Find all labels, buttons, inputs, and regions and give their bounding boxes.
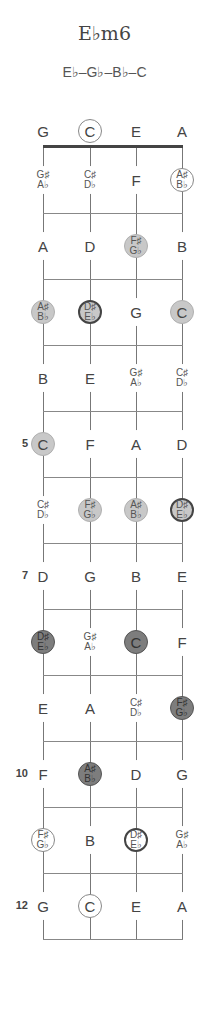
- note-name: B: [85, 833, 95, 848]
- fret-number: 10: [12, 767, 28, 779]
- note-marker-fret9-A: F♯G♭: [170, 696, 194, 720]
- note-marker-fret8-G: D♯E♭: [31, 630, 55, 654]
- fret-line: [43, 411, 183, 412]
- note-name: G: [37, 124, 49, 139]
- fret-line: [43, 873, 183, 874]
- note-marker-fret6-E: A♯B♭: [124, 498, 148, 522]
- note-marker-fret6-A: D♯E♭: [170, 498, 194, 522]
- note-flat-name: E♭: [84, 312, 96, 322]
- note-name: G: [37, 899, 49, 914]
- note-flat-name: G♭: [84, 510, 97, 520]
- note-label-fret12-G: G: [29, 892, 57, 920]
- fret-line: [43, 939, 183, 940]
- note-label-fret4-G: B: [29, 364, 57, 392]
- note-flat-name: B♭: [176, 180, 188, 190]
- note-label-fret4-C: E: [76, 364, 104, 392]
- note-marker-fret10-C: A♯B♭: [78, 762, 102, 786]
- note-marker-fret12-C: C: [78, 894, 102, 918]
- fret-line: [43, 345, 183, 346]
- note-label-fret4-A: C♯D♭: [168, 364, 196, 392]
- note-flat-name: A♭: [37, 180, 49, 190]
- note-flat-name: E♭: [37, 642, 49, 652]
- note-marker-fret5-G: C: [31, 432, 55, 456]
- note-flat-name: D♭: [37, 510, 49, 520]
- fret-line: [43, 609, 183, 610]
- note-flat-name: A♭: [176, 840, 188, 850]
- note-label-fret12-A: A: [168, 892, 196, 920]
- note-label-fret7-G: D: [29, 562, 57, 590]
- note-label-fret2-A: B: [168, 232, 196, 260]
- note-name: F: [131, 173, 140, 188]
- note-name: A: [177, 124, 187, 139]
- note-label-fret5-E: A: [122, 430, 150, 458]
- note-name: C: [131, 635, 142, 650]
- nut: [43, 145, 183, 148]
- note-label-fret7-A: E: [168, 562, 196, 590]
- note-label-fret10-A: G: [168, 760, 196, 788]
- note-name: E: [131, 124, 141, 139]
- fret-line: [43, 675, 183, 676]
- note-marker-fret8-E: C: [124, 630, 148, 654]
- note-name: C: [38, 437, 49, 452]
- note-name: G: [84, 569, 96, 584]
- note-label-fret0-A: A: [168, 117, 196, 145]
- note-label-fret5-A: D: [168, 430, 196, 458]
- note-marker-fret1-A: A♯B♭: [170, 168, 194, 192]
- note-name: F: [38, 767, 47, 782]
- note-name: C: [85, 124, 96, 139]
- note-flat-name: G♭: [176, 708, 189, 718]
- note-name: B: [38, 371, 48, 386]
- note-label-fret11-A: G♯A♭: [168, 826, 196, 854]
- note-marker-fret2-E: F♯G♭: [124, 234, 148, 258]
- note-label-fret1-G: G♯A♭: [29, 166, 57, 194]
- note-name: G: [130, 305, 142, 320]
- note-label-fret1-E: F: [122, 166, 150, 194]
- note-label-fret12-E: E: [122, 892, 150, 920]
- note-label-fret7-E: B: [122, 562, 150, 590]
- note-label-fret1-C: C♯D♭: [76, 166, 104, 194]
- note-name: E: [85, 371, 95, 386]
- note-name: C: [85, 899, 96, 914]
- note-flat-name: D♭: [84, 180, 96, 190]
- note-flat-name: A♭: [84, 642, 96, 652]
- note-marker-fret3-C: D♯E♭: [78, 300, 102, 324]
- note-label-fret7-C: G: [76, 562, 104, 590]
- note-label-fret10-E: D: [122, 760, 150, 788]
- note-name: C: [177, 305, 188, 320]
- note-name: D: [177, 437, 188, 452]
- note-label-fret4-E: G♯A♭: [122, 364, 150, 392]
- note-flat-name: E♭: [176, 510, 188, 520]
- note-label-fret6-G: C♯D♭: [29, 496, 57, 524]
- fret-number: 12: [12, 899, 28, 911]
- note-marker-fret6-C: F♯G♭: [78, 498, 102, 522]
- note-name: B: [131, 569, 141, 584]
- fret-line: [43, 477, 183, 478]
- note-name: E: [177, 569, 187, 584]
- note-label-fret2-C: D: [76, 232, 104, 260]
- note-label-fret9-G: E: [29, 694, 57, 722]
- note-label-fret0-E: E: [122, 117, 150, 145]
- note-flat-name: D♭: [130, 708, 142, 718]
- note-name: B: [177, 239, 187, 254]
- note-flat-name: B♭: [84, 774, 96, 784]
- fret-line: [43, 807, 183, 808]
- note-flat-name: B♭: [37, 312, 49, 322]
- note-name: G: [176, 767, 188, 782]
- note-label-fret3-E: G: [122, 298, 150, 326]
- fret-line: [43, 279, 183, 280]
- note-marker-fret11-E: D♯E♭: [124, 828, 148, 852]
- note-label-fret0-G: G: [29, 117, 57, 145]
- fret-line: [43, 741, 183, 742]
- note-flat-name: B♭: [130, 510, 142, 520]
- note-marker-fret3-G: A♯B♭: [31, 300, 55, 324]
- note-flat-name: E♭: [130, 840, 142, 850]
- fret-line: [43, 213, 183, 214]
- note-flat-name: D♭: [176, 378, 188, 388]
- note-name: A: [85, 701, 95, 716]
- fretboard: 571012GCEAG♯A♭C♯D♭FA♯B♭ADF♯G♭BA♯B♭D♯E♭GC…: [0, 0, 209, 1015]
- note-name: D: [38, 569, 49, 584]
- fret-number: 7: [12, 569, 28, 581]
- note-name: F: [85, 437, 94, 452]
- note-flat-name: G♭: [37, 840, 50, 850]
- note-name: A: [38, 239, 48, 254]
